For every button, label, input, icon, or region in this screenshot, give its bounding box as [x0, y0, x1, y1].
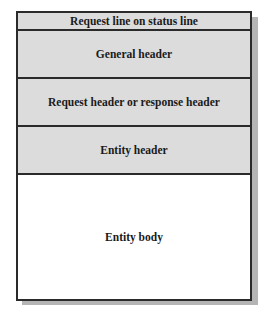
block-label: Entity header — [100, 144, 167, 156]
message-format-stack: Request line on status line General head… — [16, 11, 252, 301]
general-header-block: General header — [18, 31, 250, 79]
entity-header-block: Entity header — [18, 127, 250, 175]
entity-body-block: Entity body — [18, 175, 250, 299]
request-or-response-header-block: Request header or response header — [18, 79, 250, 127]
block-label: Entity body — [105, 231, 163, 243]
block-label: General header — [96, 48, 172, 60]
block-label: Request line on status line — [70, 15, 198, 27]
block-label: Request header or response header — [48, 96, 220, 108]
request-or-status-line-block: Request line on status line — [18, 13, 250, 31]
